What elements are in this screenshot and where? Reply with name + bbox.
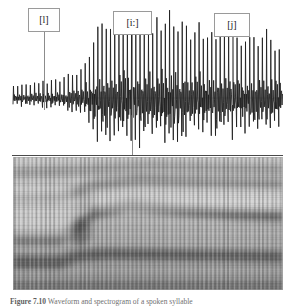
phoneme-label-box-1: [i:] (113, 11, 152, 35)
phoneme-label-box-0: [l] (28, 8, 60, 32)
figure-caption: Figure 7.10 Waveform and spectrogram of … (10, 297, 282, 306)
figure-caption-prefix: Figure 7.10 (10, 297, 46, 306)
phoneme-label-box-2: [j] (214, 13, 250, 37)
phoneme-leader-line-2 (232, 37, 233, 105)
spectrogram-image (13, 157, 283, 290)
spectrogram-panel (13, 157, 283, 290)
phoneme-leader-line-0 (44, 32, 45, 110)
panel-divider (12, 155, 283, 156)
phoneme-leader-line-1 (132, 35, 133, 155)
speech-analysis-figure: [l][i:][j] Figure 7.10 Waveform and spec… (0, 0, 290, 306)
figure-caption-text: Waveform and spectrogram of a spoken syl… (48, 297, 193, 306)
